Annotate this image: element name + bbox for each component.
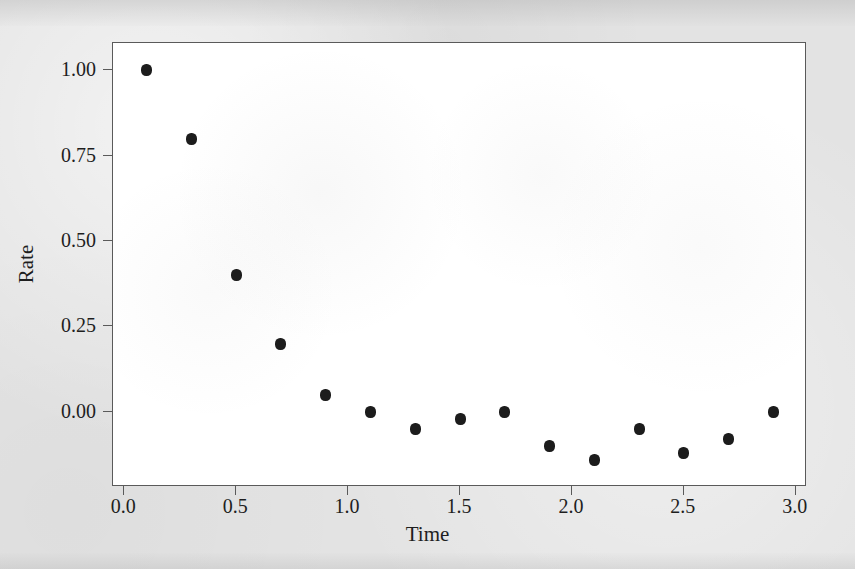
data-point bbox=[634, 423, 645, 435]
data-point bbox=[320, 389, 331, 401]
data-point bbox=[275, 338, 286, 350]
data-point bbox=[499, 406, 510, 418]
x-tick-label: 0.5 bbox=[223, 495, 248, 518]
x-tick-mark bbox=[123, 486, 124, 495]
y-tick-mark bbox=[103, 155, 112, 156]
data-point bbox=[678, 447, 689, 459]
y-tick-mark bbox=[103, 325, 112, 326]
x-tick-mark bbox=[571, 486, 572, 495]
x-tick-label: 3.0 bbox=[782, 495, 807, 518]
x-axis-title: Time bbox=[0, 522, 855, 547]
x-tick-label: 1.5 bbox=[447, 495, 472, 518]
y-tick-mark bbox=[103, 411, 112, 412]
x-tick-mark bbox=[235, 486, 236, 495]
y-axis-title: Rate bbox=[14, 245, 39, 283]
data-point bbox=[410, 423, 421, 435]
plot-panel bbox=[112, 42, 806, 486]
y-tick-label: 0.50 bbox=[61, 229, 96, 252]
x-tick-mark bbox=[347, 486, 348, 495]
y-tick-label: 0.25 bbox=[61, 314, 96, 337]
y-tick-label: 0.75 bbox=[61, 143, 96, 166]
x-tick-mark bbox=[459, 486, 460, 495]
data-point bbox=[231, 269, 242, 281]
x-tick-label: 2.0 bbox=[558, 495, 583, 518]
data-point bbox=[365, 406, 376, 418]
y-tick-mark bbox=[103, 240, 112, 241]
data-point bbox=[589, 454, 600, 466]
y-tick-mark bbox=[103, 69, 112, 70]
scatter-plot-figure: 0.00.51.01.52.02.53.0 0.000.250.500.751.… bbox=[0, 0, 855, 569]
data-point bbox=[544, 440, 555, 452]
x-tick-mark bbox=[795, 486, 796, 495]
y-tick-label: 0.00 bbox=[61, 399, 96, 422]
data-point bbox=[455, 413, 466, 425]
x-tick-label: 1.0 bbox=[335, 495, 360, 518]
x-tick-label: 0.0 bbox=[111, 495, 136, 518]
x-tick-mark bbox=[683, 486, 684, 495]
data-point bbox=[141, 64, 152, 76]
data-point bbox=[768, 406, 779, 418]
data-point bbox=[723, 433, 734, 445]
x-tick-label: 2.5 bbox=[670, 495, 695, 518]
data-point bbox=[186, 133, 197, 145]
y-tick-label: 1.00 bbox=[61, 58, 96, 81]
